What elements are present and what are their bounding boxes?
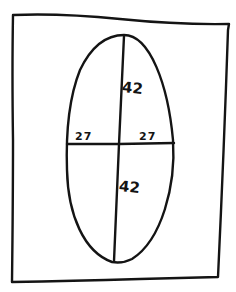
lower-semi-major-label: 42 — [118, 179, 140, 196]
outer-frame — [12, 15, 229, 283]
left-semi-minor-label: 27 — [75, 131, 92, 142]
ellipse-diagram — [0, 0, 236, 292]
minor-axis-line — [67, 143, 174, 144]
right-semi-minor-label: 27 — [139, 131, 156, 142]
major-axis-line — [114, 36, 124, 261]
upper-semi-major-label: 42 — [121, 80, 143, 97]
ellipse-outline — [67, 35, 174, 263]
